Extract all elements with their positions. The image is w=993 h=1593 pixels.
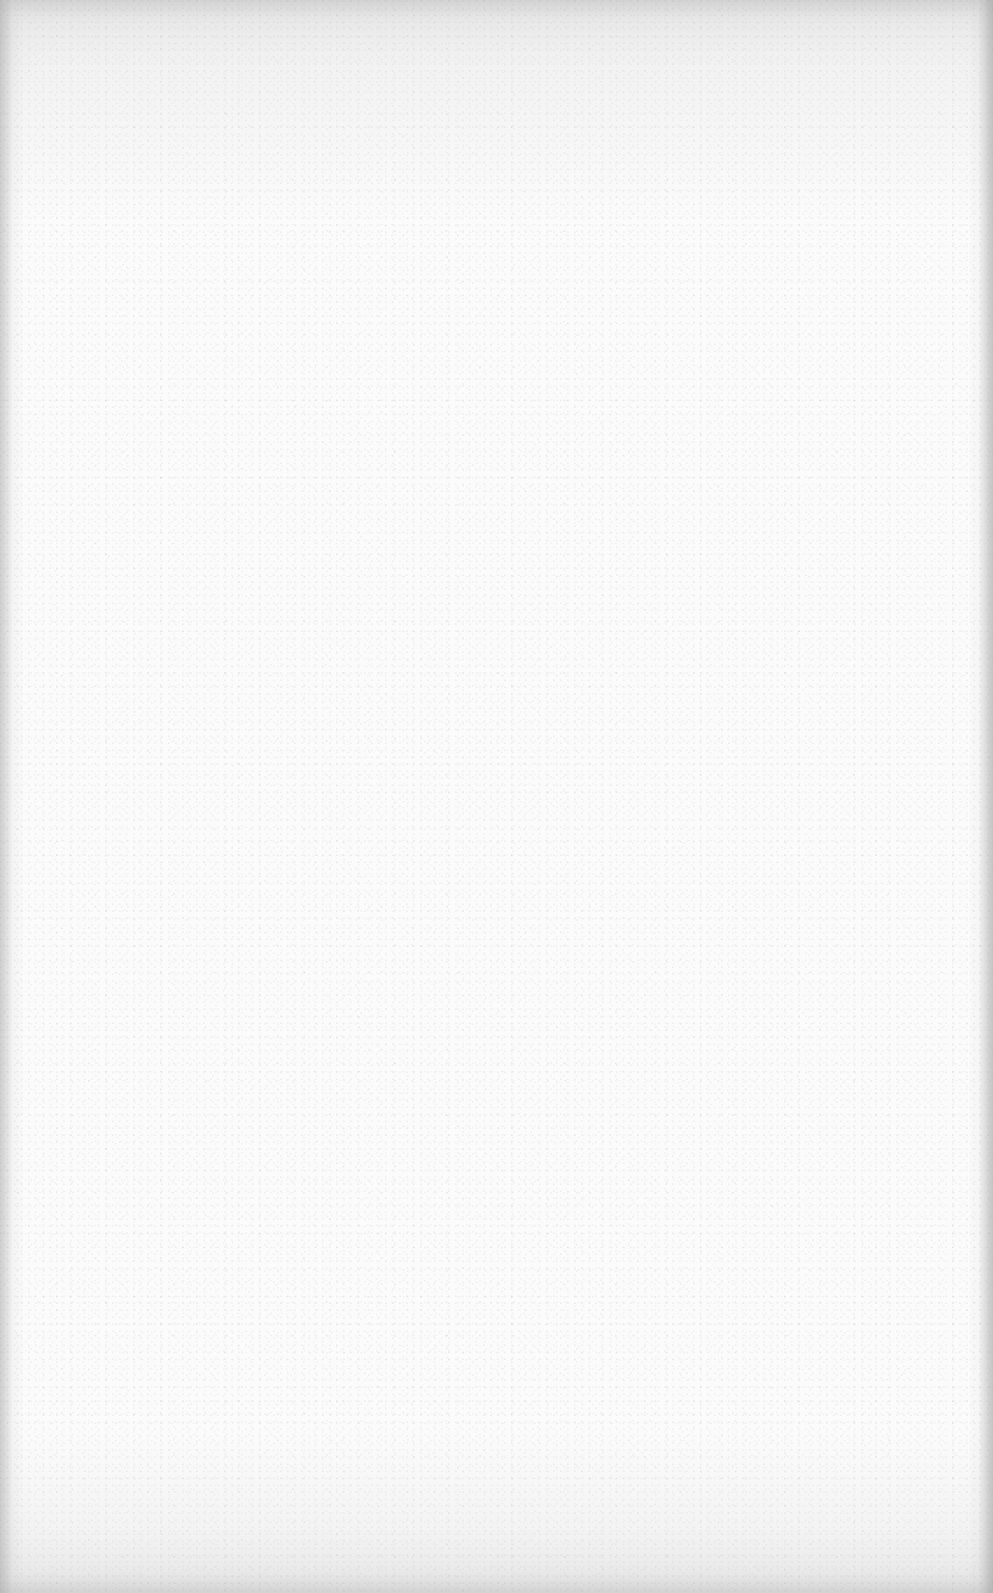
scan-vignette	[0, 0, 993, 1593]
scan-edge-left	[0, 0, 12, 1593]
scan-edge-right	[979, 0, 993, 1593]
scan-shading-bottom	[0, 1433, 993, 1593]
scan-shading-top	[0, 0, 993, 220]
blank-paper-page	[0, 0, 993, 1593]
